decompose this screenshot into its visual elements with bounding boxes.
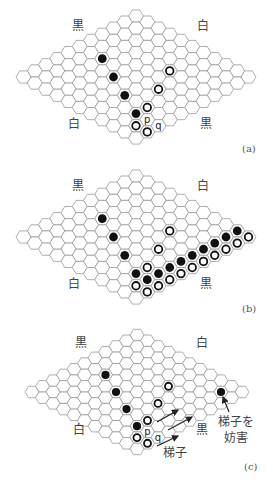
white-stone bbox=[132, 282, 140, 290]
black-stone bbox=[154, 269, 163, 278]
corner-label-bottom-right: 黒 bbox=[200, 278, 212, 290]
cell-mark-p: p bbox=[144, 426, 150, 437]
black-stone bbox=[210, 239, 219, 248]
white-stone bbox=[166, 227, 174, 235]
corner-label-top-right: 白 bbox=[197, 20, 209, 32]
black-stone bbox=[133, 422, 141, 430]
black-stone bbox=[120, 91, 129, 100]
white-stone bbox=[133, 434, 140, 441]
panel-caption: (b) bbox=[242, 303, 256, 314]
hex-cell bbox=[129, 132, 144, 144]
black-stone bbox=[143, 275, 152, 284]
panel-caption: (a) bbox=[242, 143, 256, 154]
white-stone bbox=[155, 245, 163, 253]
black-stone bbox=[188, 251, 197, 260]
black-stone bbox=[98, 54, 107, 63]
white-stone bbox=[143, 264, 151, 272]
corner-label-bottom-left: 白 bbox=[68, 118, 80, 130]
black-stone bbox=[199, 245, 208, 254]
white-stone bbox=[143, 288, 151, 296]
cell-mark-q: q bbox=[155, 120, 161, 131]
annotation-note: 梯子を bbox=[218, 416, 254, 428]
white-stone bbox=[143, 128, 151, 136]
white-stone bbox=[143, 104, 151, 112]
panel-caption: (c) bbox=[244, 461, 257, 472]
hex-cell bbox=[130, 443, 144, 454]
black-stone bbox=[222, 233, 231, 242]
hex-board bbox=[0, 160, 273, 320]
black-stone bbox=[177, 257, 186, 266]
black-stone bbox=[217, 388, 225, 396]
corner-label-top-right: 白 bbox=[196, 337, 208, 349]
corner-label-top-left: 黒 bbox=[72, 20, 84, 32]
corner-label-bottom-left: 白 bbox=[73, 424, 85, 436]
black-stone bbox=[101, 371, 109, 379]
black-stone bbox=[120, 251, 129, 260]
white-stone bbox=[155, 85, 163, 93]
hex-board: pq bbox=[0, 0, 273, 160]
white-stone bbox=[166, 276, 174, 284]
annotation-note: 梯子 bbox=[163, 447, 187, 459]
white-stone bbox=[155, 282, 163, 290]
white-stone bbox=[211, 252, 219, 260]
white-stone bbox=[144, 417, 151, 424]
corner-label-top-right: 白 bbox=[197, 180, 209, 192]
black-stone bbox=[109, 73, 118, 82]
annotation-note: 妨害 bbox=[224, 432, 248, 444]
white-stone bbox=[188, 264, 196, 272]
panel-c: pq黒白白黒梯子梯子を妨害(c) bbox=[0, 320, 273, 483]
black-stone bbox=[233, 227, 242, 236]
corner-label-bottom-left: 白 bbox=[68, 278, 80, 290]
white-stone bbox=[154, 400, 161, 407]
white-stone bbox=[144, 440, 151, 447]
black-stone bbox=[109, 233, 118, 242]
corner-label-bottom-right: 黒 bbox=[196, 424, 208, 436]
black-stone bbox=[165, 263, 174, 272]
black-stone bbox=[132, 109, 141, 118]
white-stone bbox=[166, 67, 174, 75]
corner-label-bottom-right: 黒 bbox=[200, 118, 212, 130]
corner-label-top-left: 黒 bbox=[72, 180, 84, 192]
corner-label-top-left: 黒 bbox=[75, 337, 87, 349]
hex-board: pq bbox=[0, 320, 273, 483]
panel-b: 黒白白黒(b) bbox=[0, 160, 273, 320]
white-stone bbox=[233, 239, 241, 247]
panel-a: pq黒白白黒(a) bbox=[0, 0, 273, 160]
white-stone bbox=[177, 270, 185, 278]
cell-mark-q: q bbox=[155, 432, 161, 443]
cell-mark-p: p bbox=[144, 114, 150, 125]
white-stone bbox=[132, 122, 140, 130]
black-stone bbox=[132, 269, 141, 278]
black-stone bbox=[98, 214, 107, 223]
white-stone bbox=[165, 383, 172, 390]
black-stone bbox=[112, 388, 120, 396]
white-stone bbox=[200, 258, 208, 266]
white-stone bbox=[222, 245, 230, 253]
hex-cell bbox=[129, 292, 144, 304]
black-stone bbox=[122, 405, 130, 413]
white-stone bbox=[245, 233, 253, 241]
